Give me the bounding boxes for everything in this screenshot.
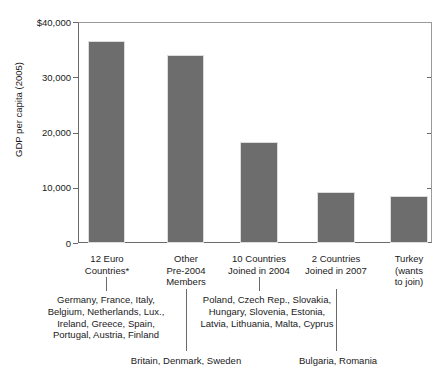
y-tick-label-40000: $40,000: [37, 18, 71, 28]
x-category-label-turkey: Turkey (wants to join): [371, 253, 446, 288]
y-tick-mark-0: [73, 243, 78, 244]
leader-line-10-countries-2004: [259, 277, 260, 291]
note-2-countries-2007: Bulgaria, Romania: [268, 355, 408, 367]
bar-turkey: [390, 196, 428, 243]
y-tick-label-20000: 20,000: [42, 128, 71, 138]
leader-line-12-euro-countries: [106, 277, 107, 291]
note-other-pre-2004: Britain, Denmark, Sweden: [110, 355, 262, 367]
bar-other-pre-2004-members: [167, 55, 204, 243]
note-12-euro-countries: Germany, France, Italy, Belgium, Netherl…: [24, 294, 188, 341]
bar-12-euro-countries: [88, 41, 125, 243]
y-tick-label-30000: 30,000: [42, 73, 71, 83]
bar-2-countries-2007: [317, 192, 355, 243]
y-tick-label-10000: 10,000: [42, 183, 71, 193]
x-category-label-12-euro-countries: 12 Euro Countries*: [66, 253, 148, 276]
bar-10-countries-2004: [240, 142, 278, 243]
chart-root: GDP per capita (2005) $40,000 30,000 20,…: [0, 0, 446, 392]
y-tick-label-0: 0: [66, 239, 71, 249]
note-10-countries-2004: Poland, Czech Rep., Slovakia, Hungary, S…: [181, 294, 353, 329]
